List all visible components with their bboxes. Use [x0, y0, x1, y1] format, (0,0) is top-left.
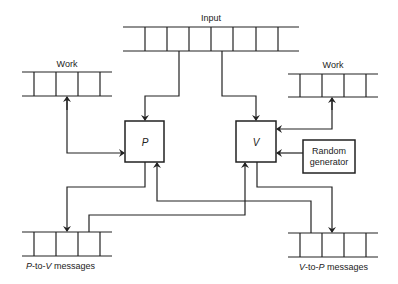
diagram-lines: [0, 0, 398, 284]
edge-input-to-v: [222, 51, 256, 120]
p-to-v-queue-label: P-to-V messages: [26, 262, 95, 271]
edge-work-v-to-v: [277, 98, 332, 129]
v-to-p-queue: [288, 233, 378, 257]
prover-label: P: [142, 137, 149, 148]
work-queue-v-label: Work: [323, 61, 344, 70]
edge-input-to-p: [145, 51, 179, 120]
input-queue-label: Input: [201, 14, 221, 23]
work-queue-p-label: Work: [57, 60, 78, 69]
random-generator-label: Random generator: [310, 146, 349, 168]
work-queue-p: [22, 72, 112, 96]
v-to-p-label-mid: -to-: [305, 262, 319, 272]
edge-work-p-to-p: [67, 97, 124, 153]
diagram-canvas: Input Work Work P V Random generator P-t…: [0, 0, 398, 284]
edge-ptov-to-v: [89, 163, 245, 232]
verifier-label: V: [253, 137, 260, 148]
p-to-v-queue: [22, 232, 112, 256]
edge-vtop-to-p: [157, 163, 311, 233]
random-generator-line1: Random: [310, 146, 349, 157]
p-to-v-label-rest: messages: [52, 261, 96, 271]
p-to-v-label-mid: -to-: [32, 261, 46, 271]
input-queue: [123, 27, 299, 51]
v-to-p-queue-label: V-to-P messages: [299, 263, 368, 272]
work-queue-v: [288, 74, 378, 97]
random-generator-line2: generator: [310, 157, 349, 168]
v-to-p-label-rest: messages: [325, 262, 369, 272]
edge-p-to-ptov: [67, 162, 145, 231]
